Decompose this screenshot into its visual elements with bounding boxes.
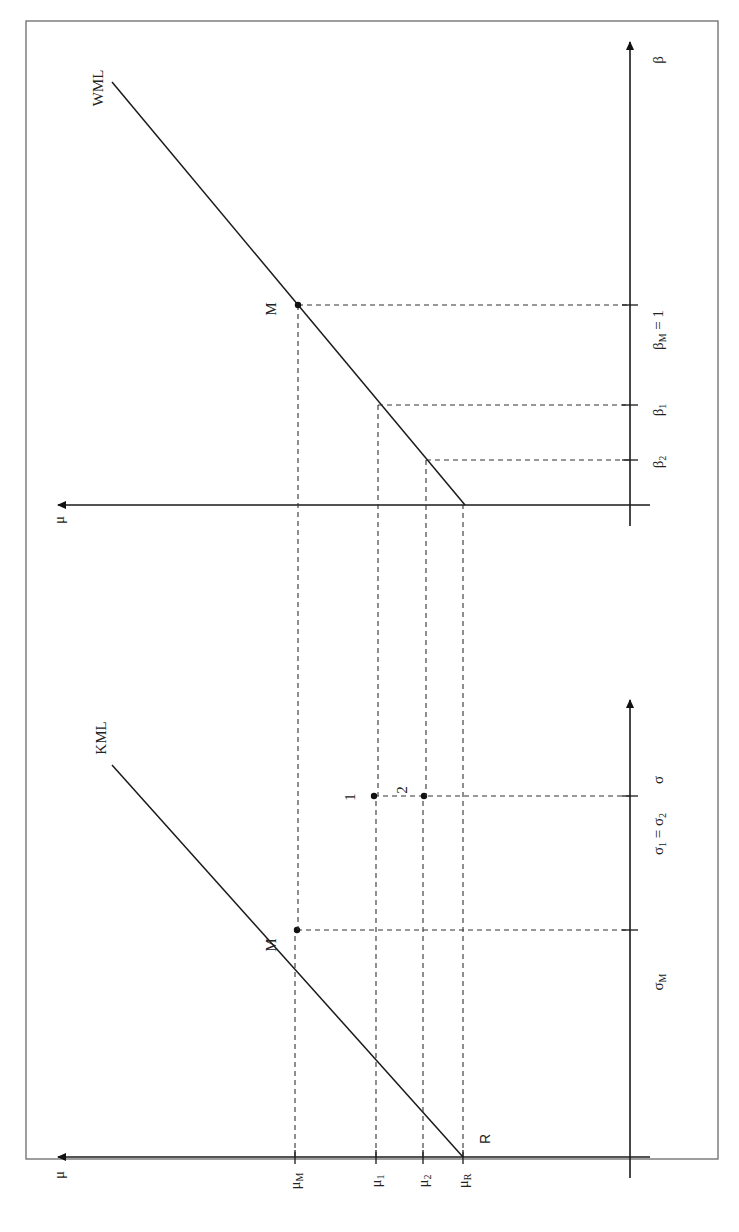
kml-origin-label: R	[477, 1134, 493, 1144]
tick-label-mu-2: μ2	[415, 1174, 433, 1187]
figure-canvas: μ σ KML R M 1 2 μM μ1 μ2 μR σM σ1 = σ2 μ…	[0, 0, 739, 1232]
wml-beta-axis-label: β	[650, 56, 666, 64]
kml-mu-axis-label: μ	[51, 1171, 67, 1179]
kml-market-point-label: M	[263, 938, 279, 951]
figure-frame	[26, 21, 718, 1159]
wml-market-point	[295, 302, 301, 308]
kml-point-1-label: 1	[342, 793, 358, 801]
wml-market-point-label: M	[263, 302, 279, 315]
tick-label-beta-2: β2	[650, 456, 668, 469]
panel-kml: μ σ KML R M 1 2 μM μ1 μ2 μR σM σ1 = σ2	[51, 505, 668, 1189]
tick-label-beta-1: β1	[650, 404, 668, 417]
wml-line	[112, 82, 465, 505]
tick-label-mu-m: μM	[287, 1172, 305, 1189]
kml-line-label: KML	[93, 721, 109, 754]
panel-wml: μ β WML M β2 β1 βM = 1	[51, 42, 668, 930]
kml-market-point	[294, 927, 300, 933]
tick-label-mu-r: μR	[455, 1173, 473, 1188]
tick-label-mu-1: μ1	[368, 1174, 386, 1187]
kml-point-1	[371, 793, 377, 799]
wml-line-label: WML	[90, 70, 106, 107]
tick-label-beta-m: βM = 1	[650, 310, 668, 350]
kml-sigma-axis-label: σ	[650, 776, 666, 784]
kml-line	[112, 765, 463, 1157]
wml-mu-axis-label: μ	[51, 516, 67, 524]
tick-label-sigma-12: σ1 = σ2	[650, 813, 668, 855]
tick-label-sigma-m: σM	[650, 973, 668, 990]
kml-point-2-label: 2	[394, 786, 410, 794]
